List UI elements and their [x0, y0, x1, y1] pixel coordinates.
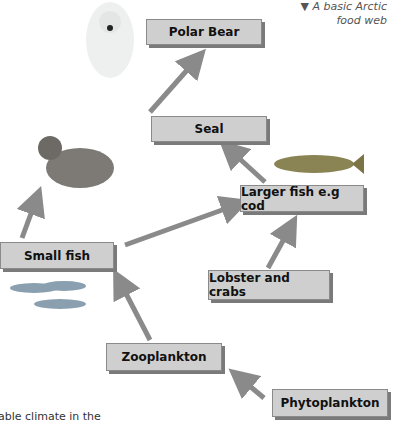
seal-image: [30, 128, 126, 198]
caption-line-1: A basic Arctic: [312, 0, 387, 13]
small-fish-image: [4, 274, 100, 318]
node-phytoplankton: Phytoplankton: [272, 389, 388, 417]
figure-caption: ▼ A basic Arctic food web: [300, 0, 387, 28]
node-seal: Seal: [151, 116, 267, 142]
node-small-fish: Small fish: [0, 242, 114, 269]
node-zooplankton: Zooplankton: [106, 343, 222, 371]
node-larger-fish: Larger fish e.g cod: [240, 185, 364, 212]
cod-image: [268, 150, 364, 178]
cut-off-body-text: able climate in the: [0, 410, 101, 422]
node-lobster-crabs: Lobster and crabs: [208, 270, 330, 300]
node-polar-bear: Polar Bear: [146, 19, 262, 45]
triangle-marker-icon: ▼: [300, 0, 308, 13]
caption-line-2: food web: [336, 14, 387, 27]
polar-bear-image: [78, 0, 142, 88]
